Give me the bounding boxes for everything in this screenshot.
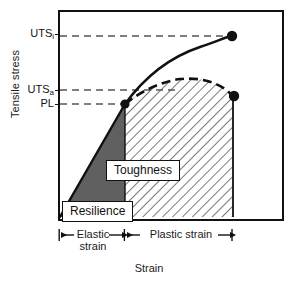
pl-point-marker bbox=[120, 99, 129, 108]
true-curve-endpoint-marker bbox=[227, 31, 237, 41]
elastic-strain-label: Elastic strain bbox=[62, 229, 124, 252]
y-tick-subscript-uts-i: i bbox=[52, 32, 54, 41]
elastic-strain-label-line1: Elastic bbox=[62, 229, 124, 241]
elastic-strain-label-line2: strain bbox=[62, 241, 124, 253]
toughness-hatched-area bbox=[125, 79, 233, 217]
y-tick-label-uts-a: UTSa bbox=[4, 84, 54, 95]
y-tick-label-pl: PL bbox=[4, 98, 54, 109]
x-axis-title: Strain bbox=[0, 262, 298, 274]
stress-strain-figure: Tensile stress UTSi UTSa PL bbox=[0, 0, 298, 281]
fracture-point-marker bbox=[229, 91, 239, 101]
y-tick-label-uts-i: UTSi bbox=[4, 28, 54, 39]
y-tick-text-uts-a: UTS bbox=[28, 83, 50, 95]
y-tick-text-uts-i: UTS bbox=[30, 27, 52, 39]
plot-area bbox=[58, 10, 284, 221]
resilience-callout: Resilience bbox=[62, 201, 133, 222]
plot-inner bbox=[60, 12, 282, 219]
y-tick-subscript-uts-a: a bbox=[50, 88, 54, 97]
toughness-callout: Toughness bbox=[106, 160, 180, 181]
curves-svg bbox=[60, 12, 282, 219]
y-tick-text-pl: PL bbox=[41, 97, 54, 109]
plastic-strain-label: Plastic strain bbox=[136, 229, 226, 241]
